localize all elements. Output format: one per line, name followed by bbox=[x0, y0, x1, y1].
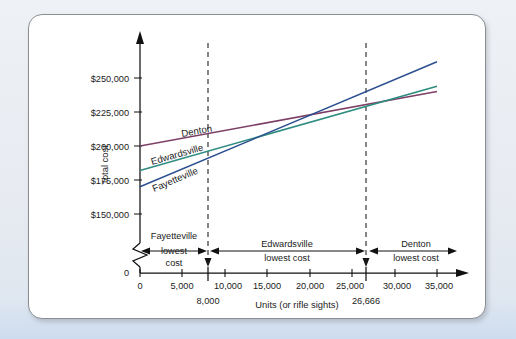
x-tick-label-25000: 25,000 bbox=[336, 281, 364, 291]
region-denton: Denton lowest cost bbox=[369, 239, 457, 263]
region-3-arrow-left bbox=[369, 248, 378, 255]
x-tick-label-20000: 20,000 bbox=[296, 281, 324, 291]
x-axis-arrowhead bbox=[456, 269, 469, 277]
region-2-arrow-right bbox=[356, 248, 365, 255]
region-3-label-line2: lowest cost bbox=[393, 253, 439, 263]
region-fayetteville: Fayetteville lowest cost bbox=[141, 231, 207, 268]
x-tick-label-35000: 35,000 bbox=[425, 281, 453, 291]
x-tick-label-15000: 15,000 bbox=[253, 281, 281, 291]
region-1-label-line3: cost bbox=[166, 258, 183, 268]
x-tick-label-5000: 5,000 bbox=[171, 281, 194, 291]
chart-card: $150,000 $175,000 $200,000 $225,000 $250… bbox=[28, 14, 486, 319]
region-1-label-line1: Fayetteville bbox=[151, 231, 197, 241]
indifference-label-26666: 26,666 bbox=[352, 296, 380, 306]
dashed-guides bbox=[208, 43, 366, 267]
y-axis-title: Total cost bbox=[99, 145, 110, 185]
region-2-label-line2: lowest cost bbox=[264, 253, 310, 263]
x-tick-label-0: 0 bbox=[137, 281, 142, 291]
y-origin-label: 0 bbox=[124, 268, 129, 278]
region-2-label-line1: Edwardsville bbox=[261, 239, 313, 249]
series-lines bbox=[140, 62, 437, 187]
y-tick-label-250000: $250,000 bbox=[91, 74, 129, 84]
x-axis-group: 0 5,000 10,000 15,000 20,000 25,000 30,0… bbox=[137, 269, 469, 310]
region-3-arrow-right bbox=[448, 248, 457, 255]
x-axis-title: Units (or rifle sights) bbox=[255, 299, 338, 310]
y-tick-label-225000: $225,000 bbox=[91, 108, 129, 118]
region-edwardsville: Edwardsville lowest cost bbox=[210, 239, 365, 263]
line-fayetteville bbox=[140, 62, 437, 187]
cost-indifference-chart: $150,000 $175,000 $200,000 $225,000 $250… bbox=[29, 15, 485, 318]
region-2-arrow-left bbox=[210, 248, 219, 255]
y-axis-break-zigzag bbox=[133, 243, 147, 267]
indifference-label-8000: 8,000 bbox=[197, 296, 220, 306]
y-axis-arrowhead bbox=[136, 31, 144, 44]
y-tick-label-150000: $150,000 bbox=[91, 210, 129, 220]
region-3-label-line1: Denton bbox=[401, 239, 431, 249]
x-tick-label-10000: 10,000 bbox=[214, 281, 242, 291]
region-1-arrow-right bbox=[198, 248, 207, 255]
region-annotations: Fayetteville lowest cost Edwardsville lo… bbox=[141, 231, 457, 268]
region-1-label-line2: lowest bbox=[161, 246, 187, 256]
x-tick-label-30000: 30,000 bbox=[383, 281, 411, 291]
y-axis-group: $150,000 $175,000 $200,000 $225,000 $250… bbox=[91, 31, 147, 278]
series-labels: Denton Edwardsville Fayetteville bbox=[150, 123, 213, 194]
